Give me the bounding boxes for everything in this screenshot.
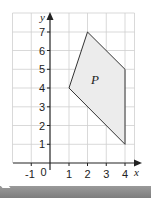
y-axis-label: y (39, 11, 45, 23)
x-tick-3: 3 (103, 168, 109, 180)
x-tick-neg1: -1 (25, 168, 35, 180)
x-axis-label: x (133, 166, 139, 178)
y-tick-4: 4 (39, 82, 45, 94)
origin-label: 0 (40, 166, 46, 178)
coordinate-grid-diagram: 7 6 5 4 3 2 1 -1 0 1 2 3 4 y x P (0, 0, 151, 198)
x-tick-2: 2 (84, 168, 90, 180)
page-edge-bar (0, 186, 151, 198)
shape-p (69, 32, 125, 144)
x-tick-4: 4 (122, 168, 128, 180)
x-tick-labels: -1 0 1 2 3 4 (25, 166, 128, 180)
y-tick-7: 7 (39, 26, 45, 38)
shape-p-label: P (90, 72, 99, 87)
y-tick-6: 6 (39, 45, 45, 57)
y-tick-2: 2 (39, 120, 45, 132)
x-tick-1: 1 (66, 168, 72, 180)
y-tick-3: 3 (39, 101, 45, 113)
y-tick-5: 5 (39, 63, 45, 75)
y-tick-1: 1 (39, 138, 45, 150)
y-tick-labels: 7 6 5 4 3 2 1 (39, 26, 45, 150)
